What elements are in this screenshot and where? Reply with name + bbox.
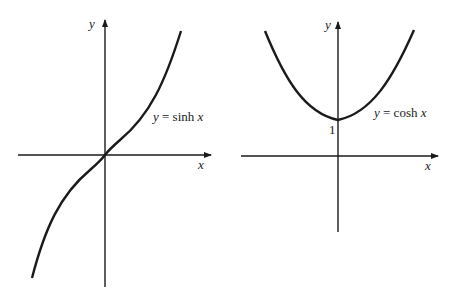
cosh-intercept-label: 1 bbox=[329, 122, 336, 137]
cosh-curve-label: y = cosh x bbox=[372, 105, 427, 120]
cosh-x-label: x bbox=[424, 158, 431, 173]
sinh-graph: y x y = sinh x bbox=[18, 16, 211, 287]
sinh-y-label: y bbox=[87, 16, 95, 31]
sinh-x-label: x bbox=[197, 157, 204, 172]
cosh-y-label: y bbox=[323, 17, 331, 32]
cosh-graph: y x 1 y = cosh x bbox=[241, 17, 438, 232]
hyperbolic-functions-figure: y x y = sinh x y x 1 y = cosh x bbox=[0, 0, 456, 300]
sinh-curve-label: y = sinh x bbox=[151, 109, 204, 124]
